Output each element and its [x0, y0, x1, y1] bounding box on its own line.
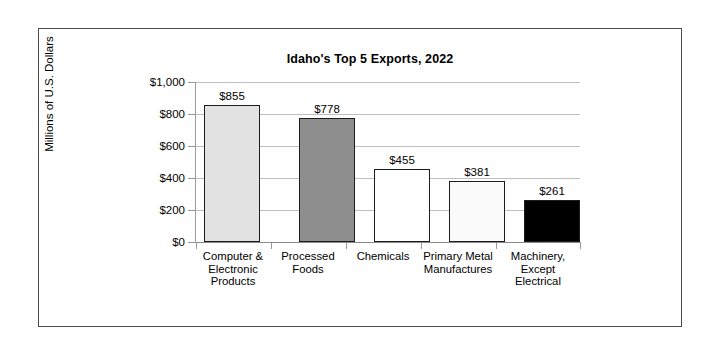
bar-chemicals[interactable] — [374, 169, 430, 242]
y-tick-label-800: $800 — [119, 108, 185, 120]
category-label-processed-foods: Processed Foods — [268, 250, 348, 275]
category-separator-3 — [421, 242, 422, 249]
chart-figure: Idaho's Top 5 Exports, 2022 Millions of … — [0, 0, 717, 353]
y-tick-label-400: $400 — [119, 172, 185, 184]
category-label-computer-electronic-products: Computer & Electronic Products — [193, 250, 273, 288]
category-separator-0 — [196, 242, 197, 249]
y-tick-label-1000: $1,000 — [119, 76, 185, 88]
bar-primary-metal-manufactures[interactable] — [449, 181, 505, 242]
y-axis-tick-labels: $1,000 $800 $600 $400 $200 $0 — [115, 0, 185, 353]
bar-value-label-4: $381 — [464, 166, 490, 178]
category-separator-4 — [496, 242, 497, 249]
plot-area — [196, 82, 580, 242]
gridline-1000 — [196, 82, 580, 83]
bar-value-label-5: $261 — [539, 185, 565, 197]
chart-title: Idaho's Top 5 Exports, 2022 — [150, 52, 590, 66]
y-tick-label-0: $0 — [119, 236, 185, 248]
bar-computer-electronic-products[interactable] — [204, 105, 260, 242]
bar-value-label-1: $855 — [219, 90, 245, 102]
category-separator-2 — [346, 242, 347, 249]
category-label-chemicals: Chemicals — [342, 250, 424, 263]
bar-value-label-2: $778 — [314, 103, 340, 115]
bar-value-label-3: $455 — [389, 154, 415, 166]
category-separator-1 — [271, 242, 272, 249]
bar-machinery-except-electrical[interactable] — [524, 200, 580, 242]
x-axis-baseline — [196, 242, 580, 243]
category-label-machinery-except-electrical: Machinery, Except Electrical — [496, 250, 580, 288]
y-tick-label-600: $600 — [119, 140, 185, 152]
bar-processed-foods[interactable] — [299, 118, 355, 242]
category-separator-5 — [580, 242, 581, 249]
y-axis-title: Millions of U.S. Dollars — [43, 0, 55, 189]
category-label-primary-metal-manufactures: Primary Metal Manufactures — [415, 250, 501, 275]
y-tick-label-200: $200 — [119, 204, 185, 216]
